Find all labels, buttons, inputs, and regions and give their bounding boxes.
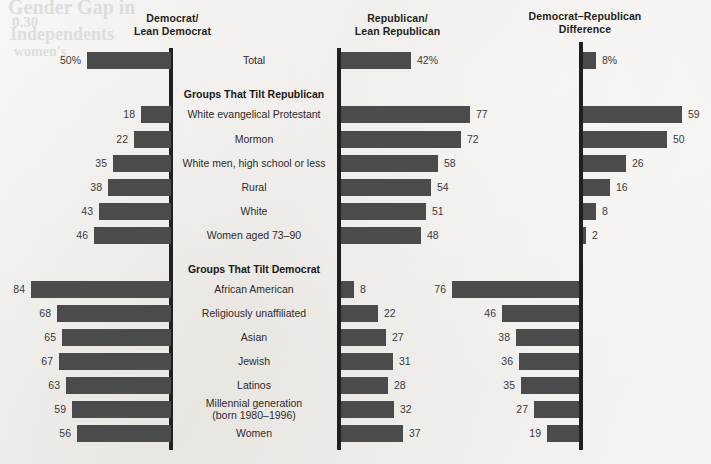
category-label-line: Latinos	[178, 379, 330, 392]
value-label-republican: 22	[384, 305, 396, 322]
category-label-line: Millennial generation	[178, 397, 330, 409]
bar-difference[interactable]	[583, 155, 626, 172]
bar-difference[interactable]	[583, 52, 596, 69]
category-label-line: Asian	[178, 331, 330, 344]
value-label-difference: 26	[632, 155, 644, 172]
bar-republican[interactable]	[341, 281, 354, 298]
bar-democrat[interactable]	[134, 131, 171, 148]
category-label: African American	[178, 283, 330, 296]
value-label-republican: 31	[399, 353, 411, 370]
value-label-republican: 72	[467, 131, 479, 148]
bar-republican[interactable]	[341, 179, 431, 196]
bar-democrat[interactable]	[77, 425, 171, 442]
bar-democrat[interactable]	[59, 353, 171, 370]
bar-difference[interactable]	[583, 131, 667, 148]
bar-democrat[interactable]	[87, 52, 171, 69]
category-label: Latinos	[178, 379, 330, 392]
bar-difference[interactable]	[452, 281, 579, 298]
category-label: Total	[178, 54, 330, 67]
section-header: Groups That Tilt Democrat	[178, 263, 330, 276]
bar-republican[interactable]	[341, 131, 461, 148]
category-label-line: Rural	[178, 181, 330, 194]
value-label-difference: 19	[529, 425, 541, 442]
bar-democrat[interactable]	[99, 203, 171, 220]
category-label: Mormon	[178, 133, 330, 146]
bar-republican[interactable]	[341, 353, 393, 370]
category-label-line: Jewish	[178, 355, 330, 368]
bar-republican[interactable]	[341, 52, 411, 69]
value-label-republican: 58	[444, 155, 456, 172]
value-label-difference: 27	[516, 401, 528, 418]
category-label-line: White men, high school or less	[178, 157, 330, 170]
bar-democrat[interactable]	[141, 106, 171, 123]
bar-republican[interactable]	[341, 401, 394, 418]
bar-republican[interactable]	[341, 203, 426, 220]
value-label-democrat: 84	[13, 281, 25, 298]
value-label-difference: 2	[592, 227, 598, 244]
bar-difference[interactable]	[583, 106, 682, 123]
category-label: Rural	[178, 181, 330, 194]
bar-difference[interactable]	[502, 305, 579, 322]
bar-republican[interactable]	[341, 329, 386, 346]
bar-democrat[interactable]	[57, 305, 171, 322]
value-label-difference: 8	[602, 203, 608, 220]
value-label-democrat: 43	[81, 203, 93, 220]
bar-democrat[interactable]	[108, 179, 171, 196]
value-label-difference: 50	[673, 131, 685, 148]
bar-democrat[interactable]	[66, 377, 171, 394]
category-label-line: (born 1980–1996)	[178, 409, 330, 421]
bar-difference[interactable]	[547, 425, 579, 442]
category-label: Millennial generation(born 1980–1996)	[178, 397, 330, 421]
value-label-republican: 32	[400, 401, 412, 418]
value-label-republican: 54	[437, 179, 449, 196]
bar-democrat[interactable]	[113, 155, 171, 172]
category-label-line: Total	[178, 54, 330, 67]
value-label-difference: 59	[688, 106, 700, 123]
bar-difference[interactable]	[516, 329, 579, 346]
column-header-difference-line1: Democrat–Republican	[490, 10, 680, 23]
bar-difference[interactable]	[519, 353, 579, 370]
value-label-difference: 16	[616, 179, 628, 196]
category-label-line: Women	[178, 427, 330, 440]
bar-republican[interactable]	[341, 425, 403, 442]
bar-republican[interactable]	[341, 106, 470, 123]
value-label-republican: 77	[476, 106, 488, 123]
bar-difference[interactable]	[583, 179, 610, 196]
value-label-democrat: 68	[39, 305, 51, 322]
bar-republican[interactable]	[341, 305, 378, 322]
bar-difference[interactable]	[583, 203, 596, 220]
column-header-democrat-line1: Democrat/	[60, 12, 285, 25]
value-label-republican: 28	[394, 377, 406, 394]
value-label-difference: 35	[503, 377, 515, 394]
bar-republican[interactable]	[341, 155, 438, 172]
section-header: Groups That Tilt Republican	[178, 88, 330, 101]
axis-line-difference	[579, 42, 583, 450]
category-label: White men, high school or less	[178, 157, 330, 170]
value-label-republican: 42%	[417, 52, 438, 69]
bar-democrat[interactable]	[72, 401, 171, 418]
category-label-line: Women aged 73–90	[178, 229, 330, 242]
column-header-democrat: Democrat/ Lean Democrat	[60, 12, 285, 37]
value-label-democrat: 35	[95, 155, 107, 172]
category-label-line: Religiously unaffiliated	[178, 307, 330, 320]
bar-difference[interactable]	[583, 227, 586, 244]
column-header-difference: Democrat–Republican Difference	[490, 10, 680, 35]
category-label: Religiously unaffiliated	[178, 307, 330, 320]
value-label-republican: 27	[392, 329, 404, 346]
value-label-democrat: 18	[123, 106, 135, 123]
column-header-difference-line2: Difference	[490, 23, 680, 36]
bar-democrat[interactable]	[31, 281, 171, 298]
value-label-democrat: 50%	[60, 52, 81, 69]
category-label: White evangelical Protestant	[178, 108, 330, 121]
bar-difference[interactable]	[521, 377, 579, 394]
bar-republican[interactable]	[341, 377, 388, 394]
bar-difference[interactable]	[534, 401, 579, 418]
bar-democrat[interactable]	[62, 329, 171, 346]
category-label: Women	[178, 427, 330, 440]
column-header-democrat-line2: Lean Democrat	[60, 25, 285, 38]
category-label-line: Mormon	[178, 133, 330, 146]
bar-democrat[interactable]	[94, 227, 171, 244]
value-label-democrat: 38	[90, 179, 102, 196]
bar-republican[interactable]	[341, 227, 421, 244]
value-label-republican: 51	[432, 203, 444, 220]
